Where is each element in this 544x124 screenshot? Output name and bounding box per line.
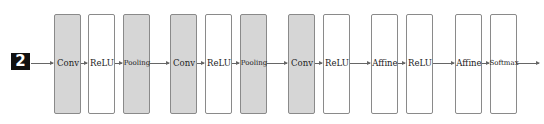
arrow-affine1-relu4 — [398, 63, 405, 64]
arrow-relu4-affine2 — [433, 63, 454, 64]
layer-relu-4-label: ReLU — [408, 56, 432, 70]
arrow-relu2-pool2 — [232, 63, 239, 64]
arrow-conv2-relu2 — [197, 63, 204, 64]
layer-conv-1-label: Conv — [57, 56, 79, 70]
input-digit-image: 2 — [11, 53, 30, 70]
arrow-conv3-relu3 — [315, 63, 322, 64]
layer-relu-3-label: ReLU — [325, 56, 349, 70]
arrow-affine2-softmax — [482, 63, 489, 64]
layer-pooling-1-label: Pooling — [124, 56, 150, 70]
layer-pooling-2-label: Pooling — [241, 56, 267, 70]
arrow-conv1-relu1 — [81, 63, 87, 64]
arrow-relu1-pool1 — [115, 63, 122, 64]
arrow-softmax-output — [517, 63, 539, 64]
layer-relu-1-label: ReLU — [90, 56, 114, 70]
layer-affine-2-label: Affine — [456, 56, 481, 70]
arrow-pool1-conv2 — [150, 63, 169, 64]
layer-conv-3-label: Conv — [291, 56, 313, 70]
layer-softmax-label: Softmax — [489, 56, 518, 70]
layer-relu-2-label: ReLU — [207, 56, 231, 70]
layer-conv-2-label: Conv — [173, 56, 195, 70]
layer-affine-1-label: Affine — [372, 56, 397, 70]
arrow-pool2-conv3 — [267, 63, 287, 64]
arrow-relu3-affine1 — [350, 63, 370, 64]
arrow-input-to-conv1 — [31, 63, 53, 64]
